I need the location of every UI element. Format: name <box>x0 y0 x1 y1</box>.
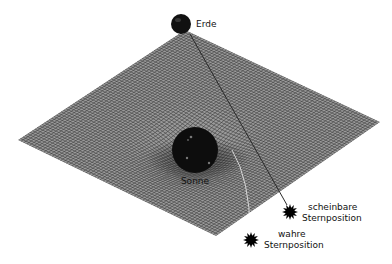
apparent-star: scheinbare Sternposition <box>282 202 362 223</box>
sun-spot <box>187 139 189 141</box>
earth-label: Erde <box>196 19 217 29</box>
sun-spot <box>190 136 193 139</box>
true-star-label-line1: wahre <box>278 229 306 239</box>
sun-label: Sonne <box>181 176 210 186</box>
sun-sphere-icon <box>172 127 218 173</box>
apparent-star-label-line2: Sternposition <box>302 213 362 223</box>
sun-spot <box>208 162 210 164</box>
earth-highlight <box>175 18 181 22</box>
earth: Erde <box>171 14 217 34</box>
star-burst-icon <box>243 232 259 248</box>
sun-spot <box>186 157 188 159</box>
true-star-label-line2: Sternposition <box>264 240 324 250</box>
star-burst-icon <box>282 204 298 220</box>
apparent-star-label-line1: scheinbare <box>308 202 358 212</box>
true-star: wahre Sternposition <box>243 229 324 250</box>
earth-sphere-icon <box>171 14 191 34</box>
spacetime-diagram: Erde Sonne scheinbare Sternposition wahr… <box>0 0 392 264</box>
